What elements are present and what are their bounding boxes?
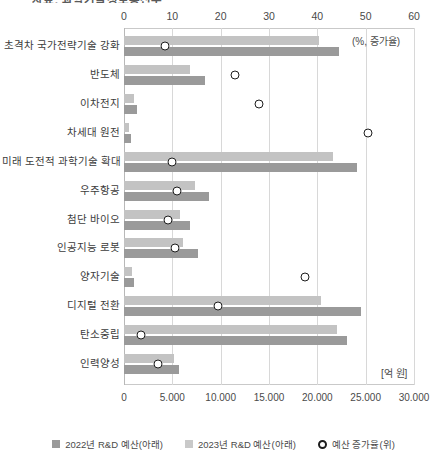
- bar-2023: [124, 278, 134, 287]
- bottom-tick-4: 20.000: [302, 391, 333, 405]
- cropped-title: 자료: 과학기술정보통신부: [32, 0, 292, 3]
- category-label: 우주항공: [2, 184, 120, 196]
- legend-square-icon: [185, 440, 193, 448]
- legend-item-1[interactable]: 2023년 R&D 예산(아래): [185, 437, 296, 451]
- legend-label: 2022년 R&D 예산(아래): [65, 437, 163, 451]
- top-tick-5: 50: [360, 9, 372, 23]
- legend-item-0[interactable]: 2022년 R&D 예산(아래): [52, 437, 163, 451]
- legend-circle-icon: [318, 440, 327, 449]
- bottom-tick-0: 0: [121, 391, 127, 405]
- chart-row: [124, 236, 414, 265]
- category-label: 인공지능 로봇: [2, 241, 120, 253]
- bar-2023: [124, 192, 209, 201]
- chart-row: [124, 265, 414, 294]
- bar-2023: [124, 249, 198, 258]
- top-axis-tick-labels: 0102030405060: [0, 9, 447, 25]
- top-axis-unit-label: (%, 증가율): [352, 33, 400, 48]
- bar-2022: [124, 296, 321, 305]
- bar-2023: [124, 105, 137, 114]
- bottom-tick-1: 5.000: [160, 391, 185, 405]
- growth-rate-marker: [214, 302, 223, 311]
- category-label: 이차전지: [2, 97, 120, 109]
- bottom-tick-6: 30.000: [399, 391, 430, 405]
- chart-row: [124, 208, 414, 237]
- chart-row: [124, 294, 414, 323]
- bar-2023: [124, 163, 357, 172]
- chart-row: [124, 179, 414, 208]
- growth-rate-marker: [170, 244, 179, 253]
- category-label: 초격차 국가전략기술 강화: [2, 39, 120, 51]
- growth-rate-marker: [364, 128, 373, 137]
- growth-rate-marker: [153, 360, 162, 369]
- gridline-6: [414, 28, 415, 385]
- legend-item-2[interactable]: 예산 증가율(위): [318, 437, 395, 451]
- bar-2022: [124, 354, 174, 363]
- bar-2023: [124, 134, 131, 143]
- growth-rate-marker: [231, 70, 240, 79]
- growth-rate-marker: [163, 215, 172, 224]
- bar-2022: [124, 152, 333, 161]
- bottom-axis-unit-label: [억 원]: [381, 365, 407, 380]
- growth-rate-marker: [161, 42, 170, 51]
- legend-square-icon: [52, 440, 60, 448]
- top-tick-0: 0: [121, 9, 127, 23]
- bottom-axis-tick-labels: 05.00010.00015.00020.00025.00030.000: [0, 391, 447, 407]
- top-tick-3: 30: [263, 9, 275, 23]
- bar-2023: [124, 76, 205, 85]
- bar-2022: [124, 65, 190, 74]
- bottom-tick-3: 15.000: [254, 391, 285, 405]
- chart-row: [124, 323, 414, 352]
- bottom-tick-5: 25.000: [350, 391, 381, 405]
- chart-row: [124, 92, 414, 121]
- category-label: 미래 도전적 과학기술 확대: [2, 155, 120, 167]
- top-tick-6: 60: [408, 9, 420, 23]
- growth-rate-marker: [301, 273, 310, 282]
- bar-2022: [124, 325, 337, 334]
- legend-label: 2023년 R&D 예산(아래): [198, 437, 296, 451]
- category-label: 첨단 바이오: [2, 213, 120, 225]
- category-label: 인력양성: [2, 357, 120, 369]
- top-tick-4: 40: [311, 9, 323, 23]
- bar-2022: [124, 267, 132, 276]
- bar-2023: [124, 47, 339, 56]
- plot-area: 초격차 국가전략기술 강화반도체이차전지차세대 원전미래 도전적 과학기술 확대…: [124, 28, 414, 385]
- category-label: 차세대 원전: [2, 126, 120, 138]
- category-label: 디지털 전환: [2, 299, 120, 311]
- bar-2023: [124, 221, 190, 230]
- chart-row: [124, 150, 414, 179]
- chart-legend: 2022년 R&D 예산(아래)2023년 R&D 예산(아래)예산 증가율(위…: [0, 437, 447, 451]
- bar-2022: [124, 181, 195, 190]
- bar-2023: [124, 307, 361, 316]
- growth-rate-marker: [168, 157, 177, 166]
- category-label: 양자기술: [2, 270, 120, 282]
- growth-rate-marker: [173, 186, 182, 195]
- category-label: 탄소중립: [2, 328, 120, 340]
- bar-2022: [124, 94, 134, 103]
- bar-2022: [124, 123, 129, 132]
- top-tick-1: 10: [166, 9, 178, 23]
- category-label: 반도체: [2, 68, 120, 80]
- bottom-tick-2: 10.000: [205, 391, 236, 405]
- growth-rate-marker: [136, 331, 145, 340]
- chart-row: [124, 63, 414, 92]
- bar-2023: [124, 365, 179, 374]
- bar-2022: [124, 36, 319, 45]
- bar-2023: [124, 336, 347, 345]
- chart-row: [124, 121, 414, 150]
- growth-rate-marker: [255, 99, 264, 108]
- top-tick-2: 20: [215, 9, 227, 23]
- rd-budget-chart: 자료: 과학기술정보통신부 0102030405060 초격차 국가전략기술 강…: [0, 0, 447, 465]
- chart-row: [124, 352, 414, 381]
- legend-label: 예산 증가율(위): [332, 437, 395, 451]
